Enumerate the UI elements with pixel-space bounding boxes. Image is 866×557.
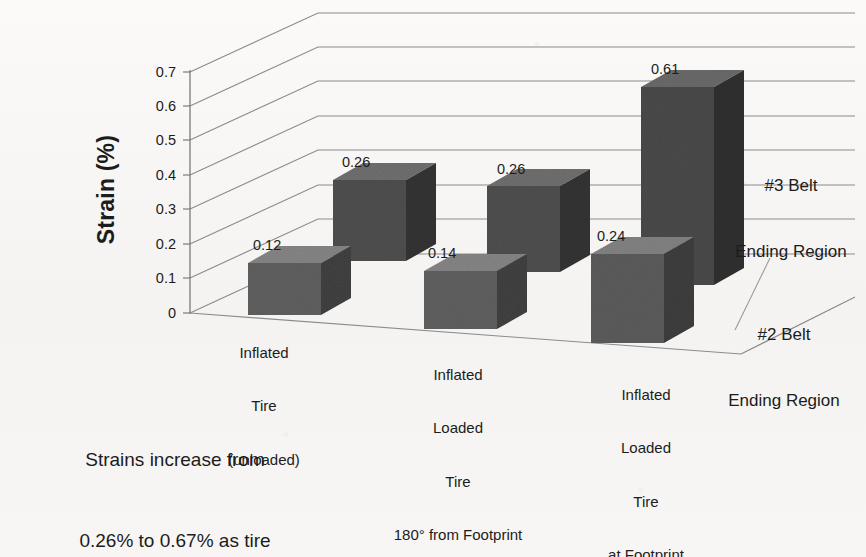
y-tick-label-0.5: 0.5 — [126, 132, 176, 149]
category-3-line3: Tire — [556, 493, 736, 511]
category-2-line4: 180° from Footprint — [358, 526, 558, 544]
y-axis-title: Strain (%) — [93, 80, 120, 300]
data-label-back-3: 0.61 — [651, 61, 679, 78]
annotation-line-2: 0.26% to 0.67% as tire — [10, 528, 340, 555]
legend-front-series: #2 Belt Ending Region — [706, 280, 862, 457]
category-2-line1: Inflated — [358, 366, 558, 384]
category-2-line2: Loaded — [358, 419, 558, 437]
legend-front-line2: Ending Region — [706, 390, 862, 412]
data-label-front-2: 0.14 — [428, 245, 456, 262]
y-tick-label-0.3: 0.3 — [126, 201, 176, 218]
data-label-back-2: 0.26 — [497, 161, 525, 178]
data-label-front-1: 0.12 — [253, 237, 281, 254]
y-tick-label-0.4: 0.4 — [126, 167, 176, 184]
y-tick-label-0.7: 0.7 — [126, 64, 176, 81]
category-3-line4: at Footprint — [556, 546, 736, 557]
y-tick-label-0.2: 0.2 — [126, 236, 176, 253]
category-1-line1: Inflated — [204, 344, 324, 362]
category-label-2: Inflated Loaded Tire 180° from Footprint — [358, 331, 558, 557]
y-tick-label-0.6: 0.6 — [126, 98, 176, 115]
data-label-back-1: 0.26 — [342, 154, 370, 171]
annotation-line-1: Strains increase from — [10, 447, 340, 474]
y-tick-label-0.1: 0.1 — [126, 270, 176, 287]
y-tick-label-0: 0 — [126, 305, 176, 322]
y-axis-ticks — [183, 72, 190, 313]
chart-annotation: Strains increase from 0.26% to 0.67% as … — [10, 393, 340, 557]
category-2-line3: Tire — [358, 473, 558, 491]
bar-front-1 — [248, 246, 351, 315]
legend-back-line2: Ending Region — [716, 241, 866, 263]
data-label-front-3: 0.24 — [597, 228, 625, 245]
bar-front-3 — [591, 237, 694, 343]
bar-front-2 — [424, 254, 527, 329]
legend-front-line1: #2 Belt — [706, 324, 862, 346]
strain-3d-bar-chart: Strain (%) 0.7 0.6 0.5 0.4 0.3 0.2 0.1 0… — [0, 0, 866, 557]
legend-back-line1: #3 Belt — [716, 175, 866, 197]
